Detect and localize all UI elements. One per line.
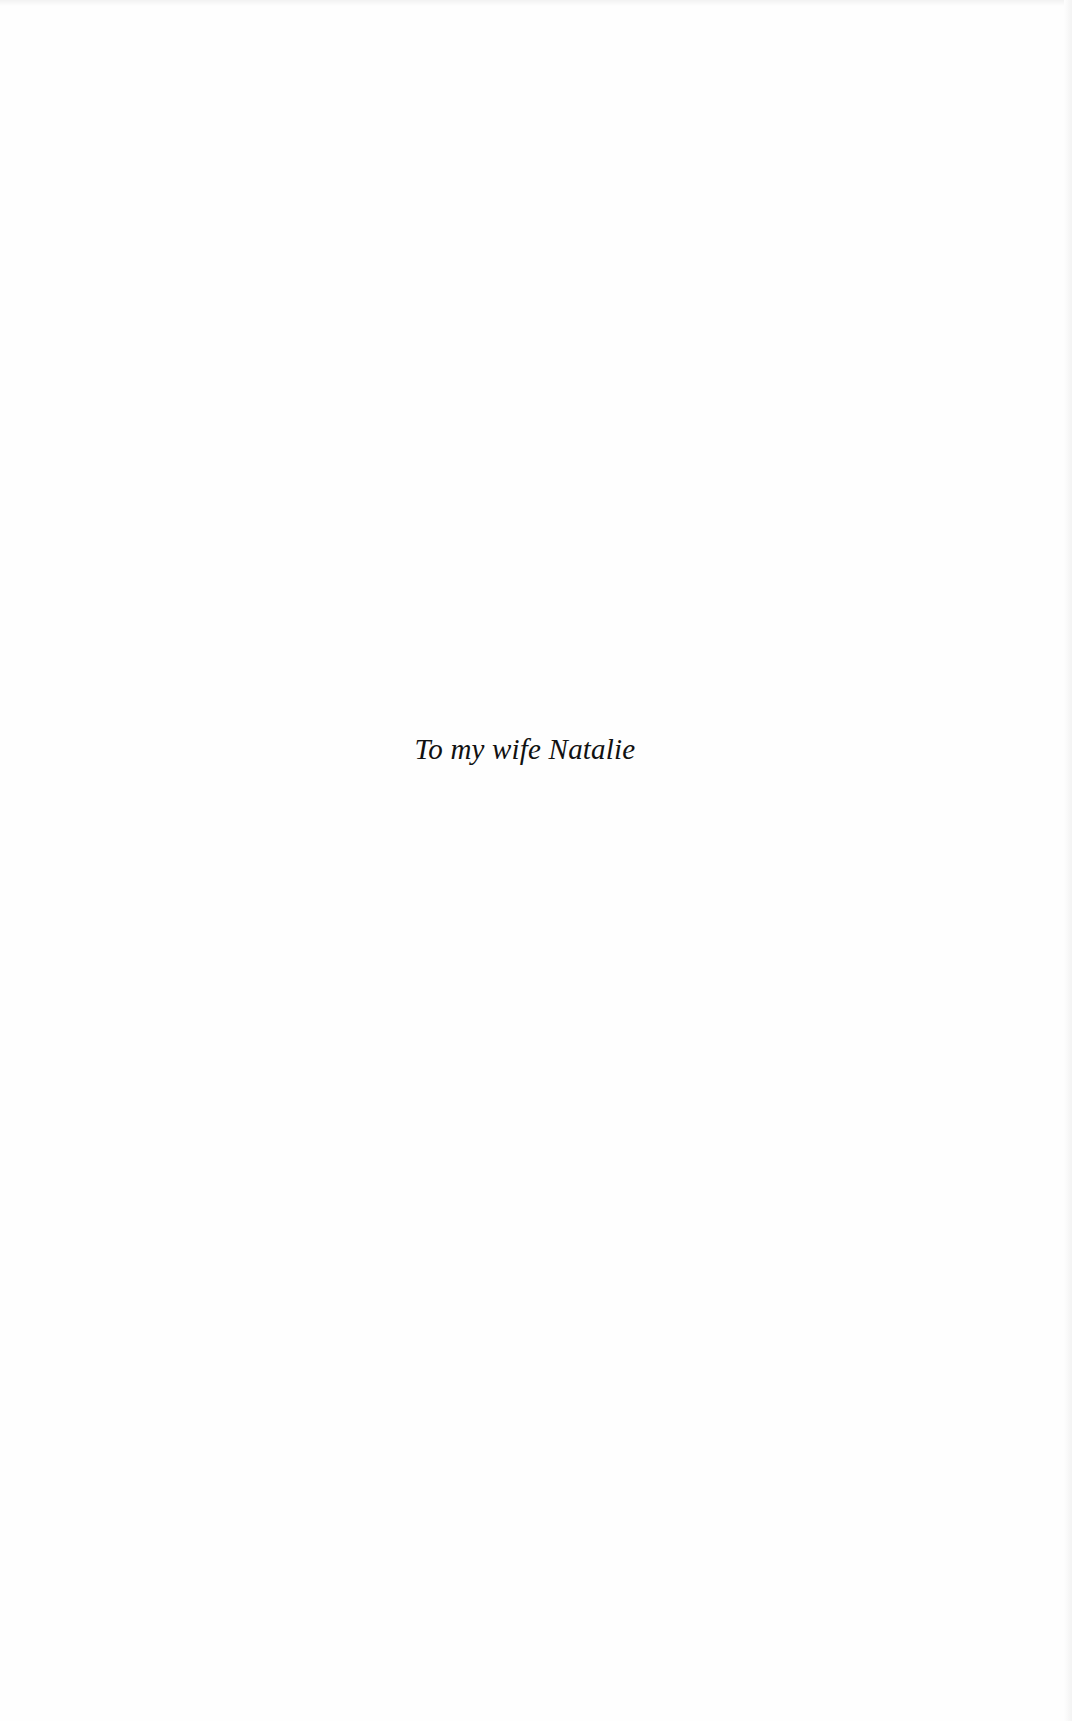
page-top-edge [0, 0, 1072, 6]
page-right-edge [1064, 0, 1072, 1721]
dedication-text: To my wife Natalie [0, 733, 1050, 766]
book-page: To my wife Natalie [0, 0, 1072, 1721]
